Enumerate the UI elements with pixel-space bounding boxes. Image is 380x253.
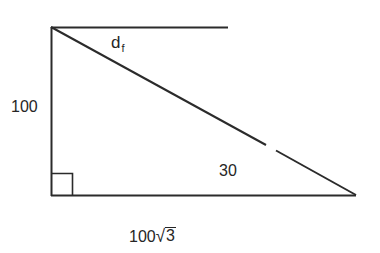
base-label-coefficient: 100	[129, 228, 156, 245]
hypotenuse-label-main: d	[111, 33, 120, 52]
hypotenuse-segment-lower	[276, 151, 356, 196]
sqrt-expression: √3	[156, 228, 176, 245]
hypotenuse-label-subscript: f	[121, 42, 124, 54]
hypotenuse-segment-upper	[51, 27, 266, 145]
sqrt-icon: √	[156, 228, 165, 246]
base-label-radicand: 3	[165, 227, 176, 244]
base-label: 100√3	[129, 228, 176, 245]
hypotenuse-label: df	[111, 34, 125, 51]
angle-label: 30	[219, 163, 237, 179]
vertical-side-label: 100	[11, 99, 38, 115]
right-triangle-diagram	[0, 0, 380, 253]
right-angle-marker	[51, 174, 73, 196]
